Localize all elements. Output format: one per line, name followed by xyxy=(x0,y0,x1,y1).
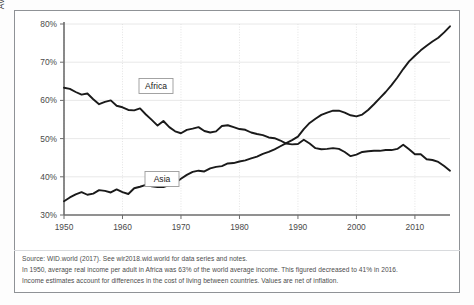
data-lines-group xyxy=(64,26,450,201)
svg-text:60%: 60% xyxy=(40,95,57,105)
svg-text:30%: 30% xyxy=(40,210,57,220)
svg-text:1970: 1970 xyxy=(172,222,191,232)
svg-text:2000: 2000 xyxy=(347,222,366,232)
chart-plot-area: 30%40%50%60%70%80% 195019601970198019902… xyxy=(14,10,460,255)
series-label-africa: Africa xyxy=(139,79,173,94)
svg-text:1980: 1980 xyxy=(230,222,249,232)
notes-block: Source: WID.world (2017). See wir2018.wi… xyxy=(14,252,460,293)
line-chart-svg: 30%40%50%60%70%80% 195019601970198019902… xyxy=(14,10,460,255)
svg-text:80%: 80% xyxy=(40,19,57,29)
x-tick-labels-group: 1950196019701980199020002010 xyxy=(55,222,425,232)
svg-text:2010: 2010 xyxy=(406,222,425,232)
source-note: Source: WID.world (2017). See wir2018.wi… xyxy=(22,255,452,264)
svg-text:40%: 40% xyxy=(40,172,57,182)
figure-container: Average national income as a percentage … xyxy=(0,0,474,305)
y-axis-label-line1: Average national income as a percentage xyxy=(0,0,7,28)
description-note-2: Income estimates account for differences… xyxy=(22,277,452,286)
series-label-asia: Asia xyxy=(145,172,179,187)
svg-text:1990: 1990 xyxy=(289,222,308,232)
svg-text:50%: 50% xyxy=(40,134,57,144)
svg-text:Asia: Asia xyxy=(154,174,171,184)
description-note-1: In 1950, average real income per adult i… xyxy=(22,266,452,275)
svg-text:1950: 1950 xyxy=(55,222,74,232)
notes-divider xyxy=(14,250,460,251)
series-annotations-group: AfricaAsia xyxy=(139,79,179,187)
gridlines-group xyxy=(64,24,450,215)
svg-text:70%: 70% xyxy=(40,57,57,67)
svg-text:Africa: Africa xyxy=(145,81,167,91)
y-tick-labels-group: 30%40%50%60%70%80% xyxy=(40,19,57,220)
svg-text:1960: 1960 xyxy=(113,222,132,232)
